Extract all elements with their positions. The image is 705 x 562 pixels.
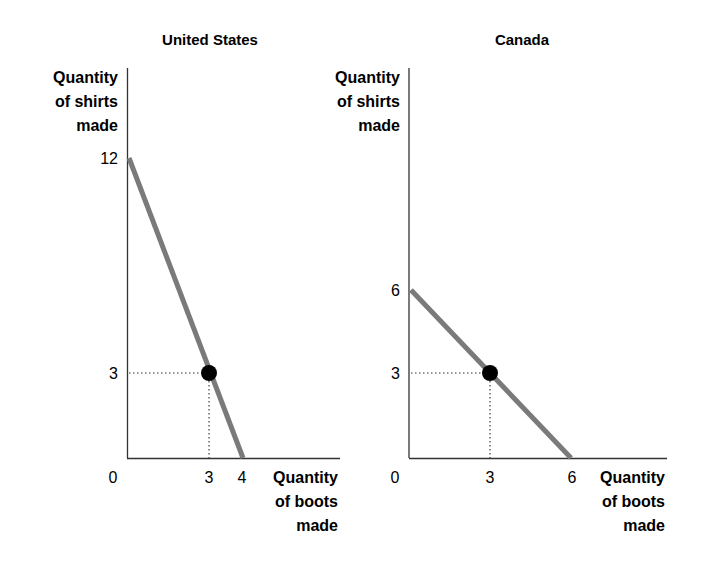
us-y-tick-12: 12 xyxy=(100,150,118,167)
canada-x-axis-label-line2: of boots xyxy=(602,493,665,510)
canada-x-axis-label-line1: Quantity xyxy=(600,469,665,486)
canada-x-axis-label-line3: made xyxy=(623,517,665,534)
us-y-axis-label-line2: of shirts xyxy=(55,93,118,110)
canada-chart-title: Canada xyxy=(495,31,550,48)
canada-y-tick-6: 6 xyxy=(391,282,400,299)
us-chart-title: United States xyxy=(162,31,258,48)
chart-canvas: United States Quantity of shirts made 12… xyxy=(0,0,705,562)
us-production-point xyxy=(201,365,217,381)
us-x-axis-label-line1: Quantity xyxy=(273,469,338,486)
us-y-tick-3: 3 xyxy=(109,365,118,382)
us-chart: United States Quantity of shirts made 12… xyxy=(53,31,340,534)
canada-x-tick-6: 6 xyxy=(568,469,577,486)
canada-x-tick-3: 3 xyxy=(486,469,495,486)
us-frontier-line xyxy=(129,158,243,458)
canada-y-tick-3: 3 xyxy=(391,365,400,382)
canada-chart: Canada Quantity of shirts made 6 3 0 3 6… xyxy=(335,31,667,534)
canada-y-axis-label-line3: made xyxy=(358,117,400,134)
canada-y-axis-label-line2: of shirts xyxy=(337,93,400,110)
us-x-axis-label-line3: made xyxy=(296,517,338,534)
canada-production-point xyxy=(482,365,498,381)
canada-y-axis-label-line1: Quantity xyxy=(335,69,400,86)
us-x-axis-label-line2: of boots xyxy=(275,493,338,510)
us-x-tick-0: 0 xyxy=(109,469,118,486)
us-x-tick-4: 4 xyxy=(238,469,247,486)
us-y-axis-label-line3: made xyxy=(76,117,118,134)
canada-x-tick-0: 0 xyxy=(391,469,400,486)
us-y-axis-label-line1: Quantity xyxy=(53,69,118,86)
us-x-tick-3: 3 xyxy=(205,469,214,486)
